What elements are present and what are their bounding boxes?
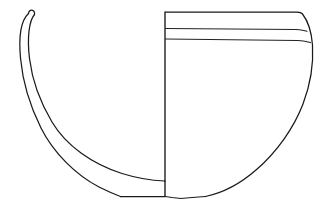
figure-root: [0, 0, 328, 213]
vessel-drawing: [0, 0, 328, 213]
